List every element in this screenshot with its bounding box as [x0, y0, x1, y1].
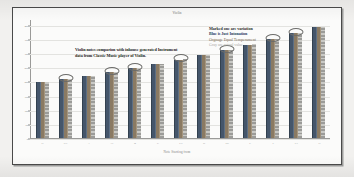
bar: [206, 55, 209, 138]
bar: [294, 33, 297, 138]
y-tick-mark: [28, 139, 30, 140]
x-tick-label: A#: [100, 141, 123, 145]
bar: [41, 82, 44, 138]
x-tick-label: G#: [54, 141, 77, 145]
bar: [174, 60, 178, 138]
bar: [275, 39, 278, 138]
bar: [82, 76, 86, 138]
bar: [229, 50, 232, 138]
x-axis-ticks: GG#AA#BCC#DD#EFF#G: [31, 141, 331, 145]
chart-frame: Violin 050100150200250300350400 Marked o…: [12, 7, 342, 165]
bar: [271, 39, 274, 138]
bar: [266, 39, 270, 138]
bar: [252, 44, 255, 138]
bar: [45, 82, 48, 138]
y-tick-label: 350: [24, 38, 28, 41]
bar: [156, 64, 159, 138]
variation-ellipse-mark: [104, 67, 119, 75]
bar: [321, 27, 324, 138]
bar-group: [146, 20, 169, 138]
bar: [248, 45, 251, 139]
bar: [160, 64, 163, 138]
bar: [243, 45, 247, 139]
bar: [128, 68, 132, 138]
bar: [202, 55, 205, 138]
bar: [179, 60, 182, 138]
x-tick-label: D: [193, 141, 216, 145]
y-tick-mark: [28, 124, 30, 125]
variation-ellipse-mark: [127, 63, 142, 71]
y-tick-label: 300: [24, 53, 28, 56]
legend: Marked one are variation Blue is Just In…: [209, 26, 305, 48]
bar-group: [169, 20, 192, 138]
bar: [225, 50, 228, 138]
x-tick-label: C: [146, 141, 169, 145]
bar: [64, 79, 67, 138]
bar: [36, 82, 40, 138]
bar: [289, 33, 293, 138]
x-tick-label: G: [31, 141, 54, 145]
bar: [183, 59, 186, 138]
chart-annotation: Violin notes comparion with inhouse gene…: [75, 47, 183, 58]
x-tick-label: D#: [216, 141, 239, 145]
y-tick-label: 250: [24, 67, 28, 70]
bar: [59, 79, 63, 138]
bar: [133, 68, 136, 138]
y-tick-label: 0: [27, 138, 28, 141]
x-axis-title: Note Starting from: [13, 150, 341, 154]
y-tick-label: 400: [24, 24, 28, 27]
chart-title: Violin: [13, 11, 341, 15]
bar: [137, 68, 140, 138]
x-tick-label: F#: [285, 141, 308, 145]
bar: [197, 55, 201, 138]
bar: [151, 64, 155, 138]
scanned-page: Violin 050100150200250300350400 Marked o…: [0, 0, 354, 177]
bar-group: [31, 20, 54, 138]
y-tick-label: 150: [24, 95, 28, 98]
y-tick-label: 100: [24, 109, 28, 112]
legend-line-actual-value: Gray are actual value: [209, 42, 305, 47]
x-tick-label: B: [123, 141, 146, 145]
bar: [87, 76, 90, 138]
bar: [114, 72, 117, 138]
x-tick-label: A: [77, 141, 100, 145]
variation-ellipse-mark: [58, 74, 73, 82]
y-tick-label: 50: [26, 123, 28, 126]
bar-group: [307, 20, 330, 138]
y-tick-label: 200: [24, 81, 28, 84]
bar-group: [100, 20, 123, 138]
x-tick-label: C#: [169, 141, 192, 145]
x-tick-label: G: [308, 141, 331, 145]
bar: [317, 27, 320, 138]
bar: [312, 27, 316, 138]
bar: [220, 50, 224, 138]
bar: [110, 72, 113, 138]
gridline: [30, 139, 330, 140]
x-tick-label: F: [262, 141, 285, 145]
bar-group: [77, 20, 100, 138]
bar-group: [123, 20, 146, 138]
bar: [298, 33, 301, 138]
bar: [105, 72, 109, 138]
bar: [68, 79, 71, 138]
x-tick-label: E: [239, 141, 262, 145]
bar-group: [54, 20, 77, 138]
bar: [91, 76, 94, 138]
